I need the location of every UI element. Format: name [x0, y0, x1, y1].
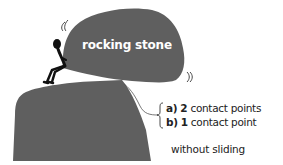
person-pushing-figure [44, 39, 66, 83]
diagram-graphics [0, 0, 283, 165]
note-without-sliding: without sliding [171, 143, 245, 155]
option-b-count: 1 [181, 116, 188, 128]
brace-icon [157, 103, 163, 128]
option-b-letter: b) [166, 116, 178, 128]
option-a: a) 2 contact points [166, 102, 261, 114]
option-b: b) 1 contact point [166, 116, 256, 128]
stone-label: rocking stone [82, 38, 162, 52]
option-a-letter: a) [166, 102, 177, 114]
base-rock [13, 80, 151, 161]
wobble-right-icon [187, 72, 192, 82]
option-b-text: contact point [191, 116, 257, 128]
option-a-count: 2 [180, 102, 187, 114]
rocking-stone-diagram: rocking stone a) 2 contact points b) 1 c… [0, 0, 283, 165]
option-a-text: contact points [190, 102, 261, 114]
wobble-left-icon [62, 20, 68, 31]
